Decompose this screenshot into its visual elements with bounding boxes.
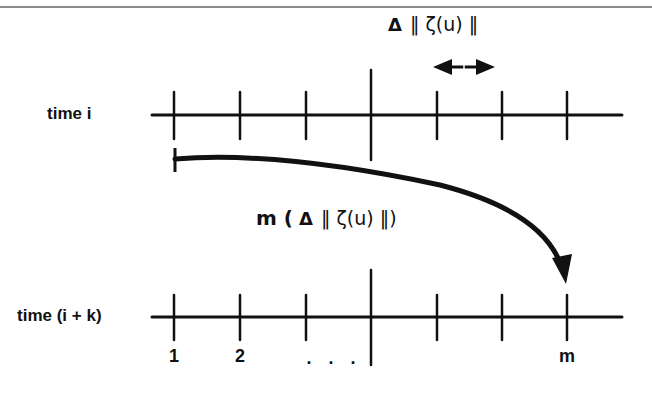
arrow-annotation: m (Δ‖ ζ(u) ‖) <box>256 206 397 230</box>
tick-label-m: m <box>559 346 575 367</box>
row-label-time-i-plus-k: time (i + k) <box>17 306 102 326</box>
delta-symbol: Δ <box>388 14 402 35</box>
norm-expression: ‖ ζ(u) ‖) <box>321 207 397 229</box>
delta-symbol: Δ <box>299 208 313 229</box>
m-prefix: m ( <box>256 206 293 230</box>
timeline-bottom <box>152 270 622 365</box>
double-arrow-icon <box>433 59 495 75</box>
tick-label-ellipsis: . . . <box>306 348 361 369</box>
timeline-top <box>152 70 622 160</box>
row-label-time-i: time i <box>47 104 91 124</box>
tick-label-2: 2 <box>235 346 245 367</box>
tick-label-1: 1 <box>169 346 179 367</box>
norm-expression: ‖ ζ(u) ‖ <box>410 13 478 35</box>
top-annotation: Δ‖ ζ(u) ‖ <box>388 12 478 36</box>
diagram-canvas <box>0 0 652 396</box>
